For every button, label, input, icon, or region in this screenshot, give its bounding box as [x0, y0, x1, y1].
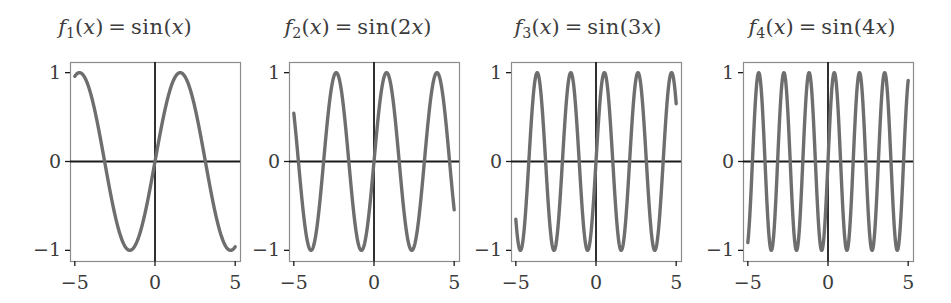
chart-panel-2: f2(x)=sin(2x)−101−505 [233, 0, 483, 303]
x-axis-tick-label: 0 [130, 273, 180, 292]
y-axis-tick-label: −1 [33, 240, 61, 259]
x-axis-tick-label: −5 [723, 273, 773, 292]
y-axis-tick-label: −1 [252, 240, 280, 259]
y-axis-tick-label: 1 [49, 63, 61, 82]
y-axis-tick-label: 1 [268, 63, 280, 82]
y-axis-tick-label: 0 [268, 152, 280, 171]
y-axis-tick-label: −1 [706, 240, 734, 259]
x-axis-tick-label: 0 [349, 273, 399, 292]
y-axis-tick-label: 0 [722, 152, 734, 171]
chart-panel-1: f1(x)=sin(x)−101−505 [0, 0, 250, 303]
x-axis-tick-label: 5 [883, 273, 933, 292]
sine-function-figure: f1(x)=sin(x)−101−505f2(x)=sin(2x)−101−50… [0, 0, 951, 303]
y-axis-tick-label: 0 [490, 152, 502, 171]
chart-panel-4: f4(x)=sin(4x)−101−505 [693, 0, 951, 303]
x-axis-tick-label: −5 [491, 273, 541, 292]
y-axis-tick-label: 0 [49, 152, 61, 171]
y-axis-tick-label: 1 [490, 63, 502, 82]
y-axis-tick-label: −1 [474, 240, 502, 259]
x-axis-tick-label: 0 [571, 273, 621, 292]
y-axis-tick-label: 1 [722, 63, 734, 82]
x-axis-tick-label: −5 [50, 273, 100, 292]
x-axis-tick-label: 0 [803, 273, 853, 292]
chart-panel-3: f3(x)=sin(3x)−101−505 [463, 0, 713, 303]
x-axis-tick-label: −5 [269, 273, 319, 292]
